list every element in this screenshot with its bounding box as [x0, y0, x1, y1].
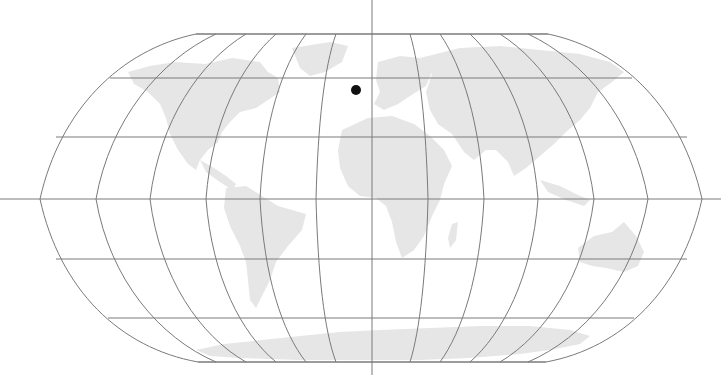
land-masses [128, 42, 644, 360]
landmass-antarctica [196, 326, 590, 360]
landmass-southeast-asia [540, 180, 590, 206]
location-dot-icon[interactable] [351, 85, 361, 95]
landmass-europe [374, 56, 432, 110]
landmass-australia [578, 222, 644, 272]
landmass-greenland [292, 42, 348, 76]
landmass-madagascar [448, 222, 458, 248]
landmass-north-america [128, 58, 280, 170]
landmass-central-america [200, 160, 236, 190]
world-map [0, 0, 721, 375]
landmass-asia [420, 46, 624, 176]
